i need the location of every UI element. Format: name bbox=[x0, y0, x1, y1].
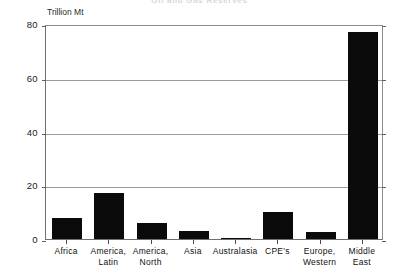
y-axis-tick-right bbox=[382, 80, 386, 81]
x-axis-tick-labels: AfricaAmerica, LatinAmerica, NorthAsiaAu… bbox=[45, 246, 383, 276]
bar bbox=[179, 231, 209, 239]
y-axis-tick-right bbox=[382, 26, 386, 27]
bar bbox=[137, 223, 167, 239]
y-axis-tick-label: 40 bbox=[0, 128, 38, 138]
y-axis-unit-label: Trillion Mt bbox=[47, 7, 84, 17]
x-axis-tick bbox=[193, 240, 194, 244]
bar bbox=[221, 238, 251, 239]
y-axis-tick-label: 60 bbox=[0, 74, 38, 84]
x-axis-tick bbox=[277, 240, 278, 244]
bar bbox=[94, 193, 124, 239]
y-axis-tick-right bbox=[382, 134, 386, 135]
y-axis-tick-right bbox=[382, 187, 386, 188]
x-axis-tick bbox=[151, 240, 152, 244]
x-axis-category-label: Middle East bbox=[334, 246, 390, 267]
y-axis-tick bbox=[42, 241, 46, 242]
bar bbox=[348, 32, 378, 239]
x-axis-tick bbox=[108, 240, 109, 244]
x-axis-tick bbox=[320, 240, 321, 244]
chart-screenshot: Oil and Gas Reserves Trillion Mt 0204060… bbox=[0, 0, 399, 279]
bar bbox=[263, 212, 293, 239]
chart-title: Oil and Gas Reserves bbox=[0, 0, 399, 5]
bar bbox=[306, 232, 336, 239]
bars-group bbox=[46, 26, 382, 239]
y-axis-tick-label: 0 bbox=[0, 235, 38, 245]
bar bbox=[52, 218, 82, 240]
plot-area bbox=[45, 25, 383, 240]
y-axis-tick-label: 80 bbox=[0, 20, 38, 30]
y-axis-tick-label: 20 bbox=[0, 181, 38, 191]
y-axis-tick-right bbox=[382, 241, 386, 242]
x-axis-tick bbox=[66, 240, 67, 244]
chart-title-text: Oil and Gas Reserves bbox=[151, 0, 247, 5]
x-axis-tick bbox=[235, 240, 236, 244]
x-axis-tick bbox=[362, 240, 363, 244]
